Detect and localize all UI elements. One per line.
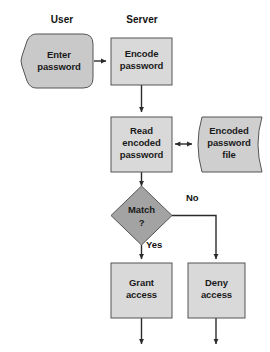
- enter-password-label-line-1: Enter: [47, 49, 71, 60]
- edge-label-no: No: [186, 192, 199, 203]
- encoded-password-file-label-line-1: Encoded: [209, 125, 249, 136]
- encode-password-label-line-2: password: [120, 60, 164, 71]
- grant-access-label-line-2: access: [126, 289, 157, 300]
- lane-label-server: Server: [126, 14, 158, 25]
- match-decision-shape: [111, 186, 172, 245]
- read-encoded-password-label-line-1: Read: [130, 125, 153, 136]
- edge-label-yes: Yes: [146, 239, 162, 250]
- node-match-decision[interactable]: Match ?: [111, 186, 172, 245]
- lane-label-user: User: [51, 14, 74, 25]
- node-encode-password[interactable]: Encode password: [111, 38, 172, 85]
- match-decision-label-line-2: ?: [139, 217, 145, 228]
- encoded-password-file-label-line-2: password: [207, 137, 251, 148]
- match-decision-label-line-1: Match: [128, 204, 155, 215]
- flowchart-svg: User Server Enter password Encode pass: [0, 0, 270, 352]
- read-encoded-password-label-line-3: password: [120, 149, 164, 160]
- node-deny-access[interactable]: Deny access: [188, 263, 245, 318]
- node-read-encoded-password[interactable]: Read encoded password: [111, 117, 172, 172]
- enter-password-label-line-2: password: [37, 61, 81, 72]
- node-encoded-password-file[interactable]: Encoded password file: [198, 117, 262, 172]
- encoded-password-file-label-line-3: file: [222, 149, 235, 160]
- grant-access-label-line-1: Grant: [129, 277, 155, 288]
- connector-match-no-to-deny: [172, 216, 216, 260]
- encode-password-label-line-1: Encode: [125, 48, 159, 59]
- node-enter-password[interactable]: Enter password: [21, 34, 93, 88]
- node-grant-access[interactable]: Grant access: [111, 263, 172, 318]
- deny-access-label-line-2: access: [201, 289, 232, 300]
- flowchart-canvas: User Server Enter password Encode pass: [0, 0, 270, 352]
- read-encoded-password-label-line-2: encoded: [122, 137, 161, 148]
- deny-access-label-line-1: Deny: [205, 277, 229, 288]
